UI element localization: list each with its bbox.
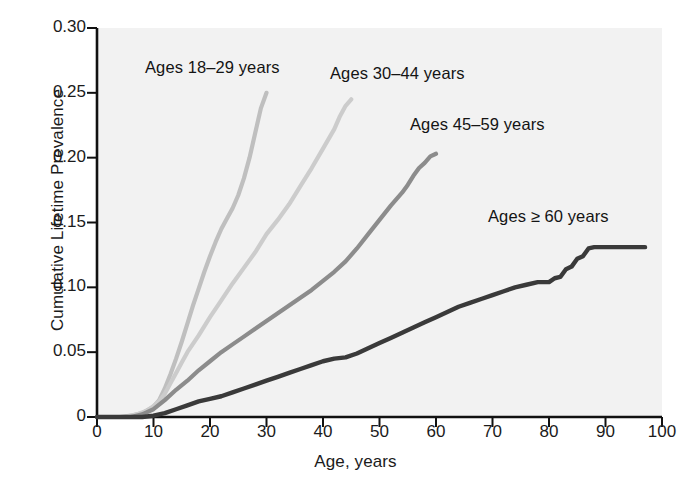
y-tick-label: 0.05: [10, 341, 86, 361]
y-axis-label: Cumulative Lifetime Prevalence: [48, 60, 68, 360]
y-tick-label: 0.25: [10, 82, 86, 102]
x-axis-label: Age, years: [0, 452, 677, 472]
x-tick-label: 70: [468, 422, 518, 442]
label-ages-18-29: Ages 18–29 years: [145, 58, 280, 77]
y-tick-label: 0.10: [10, 276, 86, 296]
x-tick-label: 50: [355, 422, 405, 442]
x-tick-label: 40: [298, 422, 348, 442]
label-ages-45-59: Ages 45–59 years: [410, 115, 545, 134]
x-tick-label: 0: [72, 422, 122, 442]
x-tick-label: 60: [411, 422, 461, 442]
label-ages-30-44: Ages 30–44 years: [330, 64, 465, 83]
y-tick-label: 0.20: [10, 147, 86, 167]
chart-figure: Cumulative Lifetime Prevalence Age, year…: [0, 0, 677, 490]
x-tick-label: 10: [129, 422, 179, 442]
x-tick-label: 30: [242, 422, 292, 442]
x-axis-label-text: Age, years: [314, 452, 396, 472]
x-tick-label: 20: [185, 422, 235, 442]
x-tick-label: 80: [524, 422, 574, 442]
x-tick-label: 90: [581, 422, 631, 442]
y-tick-label: 0.15: [10, 212, 86, 232]
label-ages-60plus: Ages ≥ 60 years: [488, 207, 609, 226]
y-tick-label: 0.30: [10, 17, 86, 37]
x-tick-label: 100: [637, 422, 677, 442]
